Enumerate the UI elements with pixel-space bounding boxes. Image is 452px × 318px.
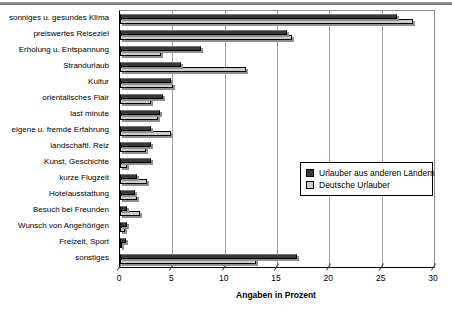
bar-urlauber-andere-laender [120, 254, 297, 259]
bar-deutsche-urlauber [120, 19, 413, 24]
bar-deutsche-urlauber [120, 115, 158, 120]
bar-deutsche-urlauber [120, 67, 246, 72]
bar-urlauber-andere-laender [120, 238, 126, 243]
bar-deutsche-urlauber [120, 99, 151, 104]
x-axis-tick-label: 25 [368, 273, 394, 283]
bar-urlauber-andere-laender [120, 46, 201, 51]
bar-deutsche-urlauber [120, 35, 292, 40]
bar-urlauber-andere-laender [120, 190, 135, 195]
gridline-15 [277, 11, 278, 267]
legend: Urlauber aus anderen Ländern Deutsche Ur… [300, 162, 433, 196]
category-axis-labels: sonniges u. gesundes Klimapreiswertes Re… [0, 10, 114, 266]
bar-deutsche-urlauber [120, 147, 146, 152]
bar-urlauber-andere-laender [120, 142, 151, 147]
category-label: Hotelausstattung [0, 186, 109, 202]
bar-urlauber-andere-laender [120, 174, 137, 179]
category-label: Besuch bei Freunden [0, 202, 109, 218]
category-label: Freizeit, Sport [0, 234, 109, 250]
x-axis-tick-label: 10 [211, 273, 237, 283]
bar-urlauber-andere-laender [120, 222, 127, 227]
legend-entry-german-tourists: Deutsche Urlauber [306, 179, 427, 191]
bar-deutsche-urlauber [120, 131, 171, 136]
x-axis-title: Angaben in Prozent [119, 290, 433, 300]
bar-urlauber-andere-laender [120, 110, 160, 115]
gridline-25 [382, 11, 383, 267]
bar-deutsche-urlauber [120, 51, 161, 56]
category-label: eigene u. fremde Erfahrung [0, 122, 109, 138]
legend-entry-foreign-tourists: Urlauber aus anderen Ländern [306, 167, 427, 179]
bar-deutsche-urlauber [120, 259, 256, 264]
x-axis-tick-label: 15 [263, 273, 289, 283]
category-label: Strandurlaub [0, 58, 109, 74]
bar-urlauber-andere-laender [120, 78, 171, 83]
top-divider-rule [0, 2, 452, 5]
category-label: Erholung u. Entspannung [0, 42, 109, 58]
category-label: sonstiges [0, 250, 109, 266]
category-label: orientalisches Flair [0, 90, 109, 106]
bar-urlauber-andere-laender [120, 94, 163, 99]
x-axis-tick-label: 5 [158, 273, 184, 283]
bar-deutsche-urlauber [120, 243, 122, 248]
chart-screenshot: sonniges u. gesundes Klimapreiswertes Re… [0, 0, 452, 318]
x-axis-tick-label: 20 [315, 273, 341, 283]
category-label: kurze Flugzeit [0, 170, 109, 186]
bar-deutsche-urlauber [120, 227, 125, 232]
category-label: preiswertes Reiseziel [0, 26, 109, 42]
bar-deutsche-urlauber [120, 179, 147, 184]
legend-label-foreign-tourists: Urlauber aus anderen Ländern [319, 168, 435, 178]
category-label: landschaftl. Reiz [0, 138, 109, 154]
bar-deutsche-urlauber [120, 195, 137, 200]
category-label: Wunsch von Angehörigen [0, 218, 109, 234]
x-axis-tick-label: 0 [106, 273, 132, 283]
bar-urlauber-andere-laender [120, 30, 287, 35]
plot-area: Urlauber aus anderen Ländern Deutsche Ur… [119, 10, 435, 268]
legend-swatch-light-icon [306, 181, 314, 189]
category-label: last minute [0, 106, 109, 122]
gridline-20 [329, 11, 330, 267]
bar-deutsche-urlauber [120, 211, 140, 216]
bar-urlauber-andere-laender [120, 126, 151, 131]
bar-urlauber-andere-laender [120, 62, 181, 67]
category-label: sonniges u. gesundes Klima [0, 10, 109, 26]
x-axis-tick-label: 30 [420, 273, 446, 283]
category-label: Kultur [0, 74, 109, 90]
category-label: Kunst, Geschichte [0, 154, 109, 170]
bar-urlauber-andere-laender [120, 14, 397, 19]
legend-swatch-dark-icon [306, 169, 314, 177]
bar-deutsche-urlauber [120, 83, 173, 88]
bar-deutsche-urlauber [120, 163, 127, 168]
gridline-10 [225, 11, 226, 267]
bar-urlauber-andere-laender [120, 158, 151, 163]
legend-label-german-tourists: Deutsche Urlauber [319, 180, 390, 190]
bar-urlauber-andere-laender [120, 206, 127, 211]
